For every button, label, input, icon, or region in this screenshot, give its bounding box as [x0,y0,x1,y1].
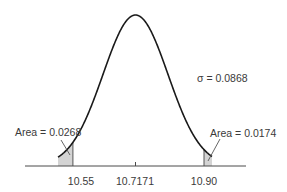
x-tick-label-10-55: 10.55 [68,176,94,187]
normal-distribution-chart [0,0,287,192]
left-area-label: Area = 0.0268 [15,127,81,138]
right-area-leader-line [208,139,220,161]
right-area-label: Area = 0.0174 [210,128,276,139]
x-tick-label-10-90: 10.90 [191,176,217,187]
right-tail-shaded-area [204,150,212,166]
x-tick-label-mean: 10.7171 [116,176,154,187]
sigma-label: σ = 0.0868 [197,73,248,84]
